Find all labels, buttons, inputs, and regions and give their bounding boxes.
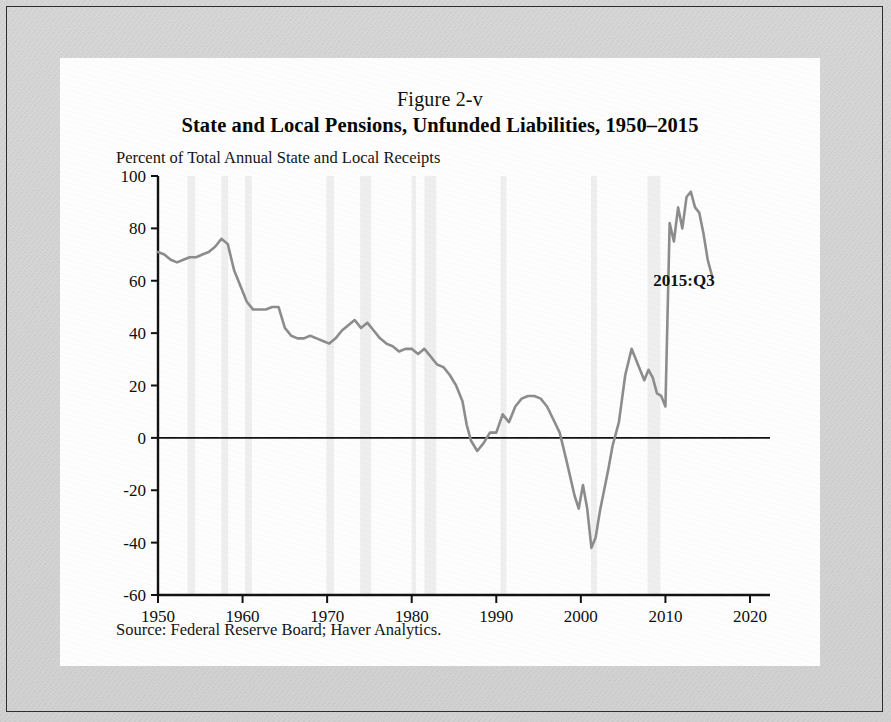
x-axis-tick-label: 1990 bbox=[479, 607, 513, 626]
y-axis-tick-label: 20 bbox=[129, 377, 146, 396]
source-note: Source: Federal Reserve Board; Haver Ana… bbox=[116, 620, 441, 640]
y-axis-tick-label: -20 bbox=[123, 481, 146, 500]
recession-band bbox=[245, 176, 252, 595]
y-axis-tick-label: 0 bbox=[138, 429, 147, 448]
recession-band bbox=[501, 176, 507, 595]
chart-axes bbox=[151, 176, 770, 603]
y-axis-tick-labels: -60-40-20020406080100 bbox=[121, 167, 147, 605]
figure-sheet: Figure 2-v State and Local Pensions, Unf… bbox=[60, 58, 820, 666]
y-axis-tick-label: 60 bbox=[129, 272, 146, 291]
y-axis-tick-label: 40 bbox=[129, 324, 146, 343]
recession-band bbox=[360, 176, 371, 595]
figure-container: Figure 2-v State and Local Pensions, Unf… bbox=[60, 58, 820, 666]
recession-band bbox=[188, 176, 196, 595]
scanned-page: Figure 2-v State and Local Pensions, Unf… bbox=[0, 0, 891, 722]
plot-area: -60-40-20020406080100 195019601970198019… bbox=[60, 58, 820, 666]
y-axis-tick-label: 80 bbox=[129, 219, 146, 238]
recession-band bbox=[424, 176, 436, 595]
data-annotation-label: 2015:Q3 bbox=[653, 271, 714, 290]
y-axis-tick-label: -60 bbox=[123, 586, 146, 605]
recession-band bbox=[412, 176, 416, 595]
line-chart: -60-40-20020406080100 195019601970198019… bbox=[60, 58, 820, 666]
y-axis-tick-label: -40 bbox=[123, 534, 146, 553]
x-axis-tick-label: 2010 bbox=[648, 607, 682, 626]
y-axis-tick-label: 100 bbox=[121, 167, 147, 186]
recession-band bbox=[326, 176, 334, 595]
x-axis-tick-label: 2000 bbox=[564, 607, 598, 626]
x-axis-tick-label: 2020 bbox=[733, 607, 767, 626]
chart-annotations: 2015:Q3 bbox=[653, 271, 714, 290]
